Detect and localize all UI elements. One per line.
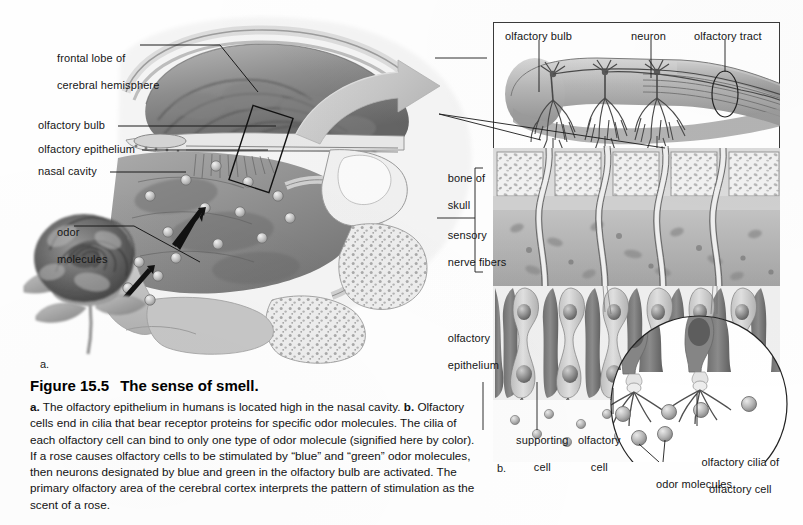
label-b-olfactory-cilia: olfactory cilia of olfactory cell — [670, 442, 798, 510]
label-b-olfactory-tract: olfactory tract — [694, 30, 762, 44]
label-frontal-lobe-line2: cerebral hemisphere — [57, 79, 159, 91]
label-odor-line2: molecules — [57, 253, 108, 265]
panel-b-olfactory-pathway — [493, 22, 780, 462]
label-b-sensory-nerve-fibers: sensory nerve fibers — [435, 215, 506, 283]
figure-caption-body: a. The olfactory epithelium in humans is… — [30, 399, 482, 513]
label-frontal-lobe-line1: frontal lobe of — [57, 52, 125, 64]
label-b-epi-line2: epithelium — [448, 359, 499, 371]
figure-caption: Figure 15.5The sense of smell. a. The ol… — [30, 376, 482, 513]
label-b-olfactory-epithelium: olfactory epithelium — [435, 318, 499, 386]
label-frontal-lobe: frontal lobe of cerebral hemisphere — [38, 38, 159, 106]
caption-a-marker: a. — [30, 400, 40, 413]
label-b-epi-line1: olfactory — [448, 332, 491, 344]
label-b-odor-molecules: odor molecules — [632, 478, 756, 492]
label-sensory-line1: sensory — [448, 229, 487, 241]
caption-b-text: Olfactory cells end in cilia that bear r… — [30, 400, 474, 511]
figure-15-5: frontal lobe of cerebral hemisphere olfa… — [0, 0, 803, 525]
label-olfactory-epithelium: olfactory epithelium — [38, 143, 135, 157]
label-sensory-line2: nerve fibers — [448, 256, 507, 268]
figure-number: Figure 15.5 — [30, 377, 109, 394]
label-olf-cell-line2: cell — [591, 461, 608, 473]
label-olf-cell-line1: olfactory — [578, 434, 621, 446]
label-odor-line1: odor — [57, 226, 79, 238]
panel-a-sagittal-head: frontal lobe of cerebral hemisphere olfa… — [0, 0, 492, 380]
figure-title-line: Figure 15.5The sense of smell. — [30, 376, 482, 395]
panel-a-marker: a. — [40, 358, 49, 370]
label-b-neuron: neuron — [631, 30, 666, 44]
label-olfactory-bulb: olfactory bulb — [38, 119, 105, 133]
olfactory-bulb-and-plate — [126, 133, 404, 153]
caption-b-marker: b. — [404, 400, 414, 413]
panel-b-marker: b. — [497, 462, 506, 474]
figure-title: The sense of smell. — [120, 377, 258, 394]
label-cilia-line1: olfactory cilia of — [701, 456, 779, 468]
label-odor-molecules: odor molecules — [38, 212, 108, 280]
label-bone-line1: bone of — [448, 172, 485, 184]
label-nasal-cavity: nasal cavity — [38, 165, 97, 179]
label-supporting-line2: cell — [534, 461, 551, 473]
label-b-olfactory-cell: olfactory cell — [560, 420, 626, 488]
caption-a-text: The olfactory epithelium in humans is lo… — [40, 400, 404, 413]
label-b-olfactory-bulb: olfactory bulb — [505, 30, 572, 44]
label-bone-line2: skull — [448, 199, 471, 211]
